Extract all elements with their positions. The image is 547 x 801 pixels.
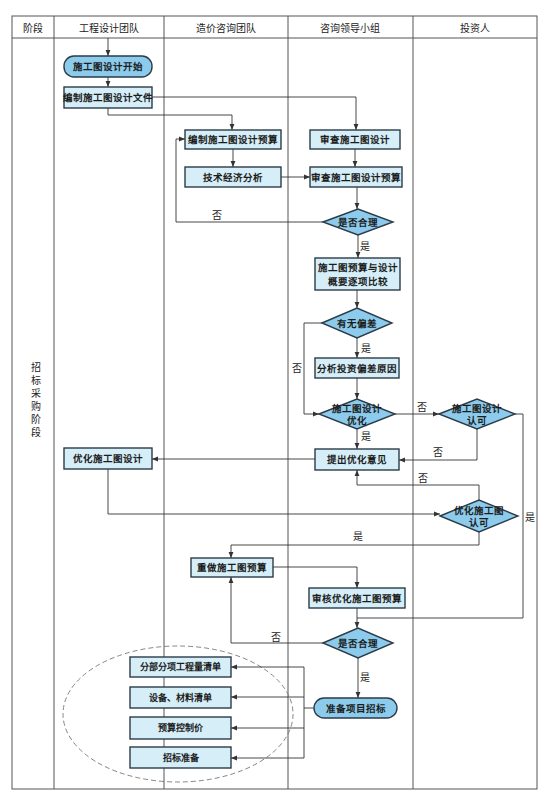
- node-label: 审核优化施工图预算: [312, 593, 402, 604]
- node-label: 审查施工图设计: [320, 134, 390, 145]
- node-label: 重做施工图预算: [197, 562, 267, 573]
- node-start-design: 施工图设计开始: [64, 56, 152, 77]
- node-label-line2: 优化: [347, 415, 367, 426]
- node-label-line1: 施工图预算与设计: [318, 262, 398, 273]
- node-label: 设备、材料清单: [149, 692, 212, 703]
- node-optimize-design: 优化施工图设计: [64, 448, 152, 469]
- node-review-budget: 审查施工图设计预算: [310, 167, 402, 187]
- node-label: 编制施工图设计预算: [188, 134, 278, 145]
- decision-deviation: 有无偏差: [322, 308, 392, 338]
- decision-design-optimize: 施工图设计 优化: [319, 399, 395, 429]
- edge-arrow: [273, 567, 357, 588]
- edge-label-yes: 是: [353, 531, 363, 542]
- edge-label-no: 否: [433, 447, 443, 458]
- edge-label-yes: 是: [360, 672, 370, 683]
- node-tender-preparation: 招标准备: [130, 747, 231, 768]
- edge-arrow: [108, 469, 440, 514]
- node-label: 施工图设计开始: [73, 61, 143, 72]
- node-label: 分部分项工程量清单: [140, 661, 221, 672]
- edge-label-no: 否: [292, 363, 302, 374]
- node-budget-control-price: 预算控制价: [130, 717, 231, 739]
- header-stage: 阶段: [23, 22, 43, 34]
- node-label-line2: 概要逐项比较: [328, 276, 388, 287]
- node-label: 编制施工图设计文件: [63, 92, 153, 103]
- edge-label-no: 否: [271, 632, 281, 643]
- node-compare-budget-estimate: 施工图预算与设计 概要逐项比较: [315, 258, 400, 290]
- decision-optimized-approve: 优化施工图 认可: [440, 500, 518, 532]
- node-label-line1: 施工图设计: [332, 403, 382, 414]
- node-redo-budget: 重做施工图预算: [191, 558, 273, 577]
- node-label: 招标准备: [163, 752, 200, 763]
- edge-label-no: 否: [418, 473, 428, 484]
- node-prepare-budget: 编制施工图设计预算: [185, 130, 281, 149]
- header-investor: 投资人: [460, 22, 490, 34]
- edge-label-yes: 是: [361, 431, 371, 442]
- node-bill-of-quantities: 分部分项工程量清单: [130, 657, 231, 677]
- node-label-line2: 认可: [469, 517, 489, 528]
- header-consulting-leadership-group: 咨询领导小组: [320, 22, 380, 34]
- edge-label-no: 否: [212, 210, 222, 221]
- edge-label-yes: 是: [361, 343, 371, 354]
- node-tech-econ-analysis: 技术经济分析: [185, 167, 281, 187]
- node-prepare-tender: 准备项目招标: [314, 698, 397, 718]
- node-label: 优化施工图设计: [73, 453, 143, 464]
- edge-label-yes: 是: [525, 512, 535, 523]
- node-label: 分析投资偏差原因: [317, 363, 397, 374]
- node-label-line1: 优化施工图: [454, 505, 504, 516]
- node-label: 预算控制价: [158, 722, 204, 733]
- edge-arrow: [108, 108, 232, 130]
- swimlane-flowchart: 阶段 工程设计团队 造价咨询团队 咨询领导小组 投资人: [0, 0, 547, 801]
- node-label: 提出优化意见: [327, 454, 387, 465]
- node-label: 有无偏差: [337, 318, 377, 329]
- node-label: 准备项目招标: [326, 703, 386, 714]
- header-design-team: 工程设计团队: [79, 22, 139, 34]
- edge-label-no: 否: [417, 402, 427, 413]
- decision-reasonable-2: 是否合理: [323, 628, 393, 658]
- node-label: 技术经济分析: [203, 172, 263, 183]
- node-label: 审查施工图设计预算: [311, 172, 401, 183]
- node-audit-optimized-budget: 审核优化施工图预算: [309, 588, 405, 608]
- decision-reasonable-1: 是否合理: [323, 209, 393, 235]
- decision-design-approve: 施工图设计 认可: [439, 399, 515, 429]
- node-label: 是否合理: [337, 217, 378, 228]
- lane-headers: 阶段 工程设计团队 造价咨询团队 咨询领导小组 投资人: [23, 22, 490, 34]
- node-analyze-deviation: 分析投资偏差原因: [315, 358, 399, 378]
- edge-arrow: [152, 97, 356, 130]
- node-equipment-material-list: 设备、材料清单: [130, 687, 231, 708]
- header-cost-consulting-team: 造价咨询团队: [196, 22, 256, 34]
- edge-label-yes: 是: [360, 241, 370, 252]
- node-label-line1: 施工图设计: [452, 403, 502, 414]
- node-label-line2: 认可: [467, 415, 487, 426]
- node-propose-optimization: 提出优化意见: [315, 449, 399, 470]
- stage-label: 招标采购阶段: [24, 362, 42, 440]
- node-label: 是否合理: [337, 638, 378, 649]
- node-prepare-design-docs: 编制施工图设计文件: [63, 87, 153, 108]
- node-review-design: 审查施工图设计: [310, 130, 400, 149]
- flowchart-canvas: 阶段 工程设计团队 造价咨询团队 咨询领导小组 投资人: [0, 0, 547, 801]
